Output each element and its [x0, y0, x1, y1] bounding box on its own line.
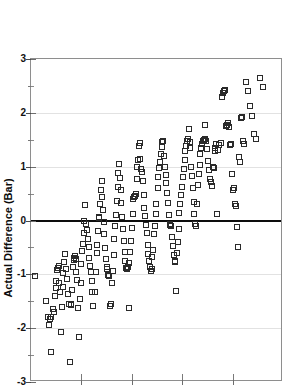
data-point-marker: [149, 266, 155, 272]
data-point-marker: [102, 245, 108, 251]
data-point-marker: [188, 164, 194, 170]
y-tick-major-inner: [31, 328, 36, 329]
data-point-marker: [237, 159, 243, 165]
data-point-marker: [99, 178, 105, 184]
data-point-marker: [247, 103, 253, 109]
data-point-marker: [82, 202, 88, 208]
data-point-marker: [150, 247, 156, 253]
data-point-marker: [153, 201, 159, 207]
data-point-marker: [172, 258, 178, 264]
y-tick-minor-inner: [31, 140, 34, 141]
data-point-marker: [128, 238, 134, 244]
data-point-marker: [153, 211, 159, 217]
data-point-marker: [241, 141, 247, 147]
data-point-marker: [260, 84, 266, 90]
data-point-marker: [228, 141, 234, 147]
data-point-marker: [152, 223, 158, 229]
data-point-marker: [214, 211, 220, 217]
data-point-marker: [76, 334, 82, 340]
data-point-marker: [121, 238, 127, 244]
data-point-marker: [253, 136, 259, 142]
data-point-marker: [111, 236, 117, 242]
data-point-marker: [59, 304, 65, 310]
data-point-marker: [164, 190, 170, 196]
data-point-marker: [155, 185, 161, 191]
data-point-marker: [165, 200, 171, 206]
data-point-marker: [84, 227, 90, 233]
data-point-marker: [234, 224, 240, 230]
data-point-marker: [166, 212, 172, 218]
y-tick-minor-inner: [31, 86, 34, 87]
x-tick-major-inner: [81, 374, 82, 380]
data-point-marker: [141, 205, 147, 211]
x-tick-major: [182, 380, 183, 385]
y-tick-minor-inner: [31, 247, 34, 248]
data-point-marker: [176, 226, 182, 232]
data-point-marker: [117, 175, 123, 181]
data-point-marker: [61, 259, 67, 265]
x-tick-major: [233, 380, 234, 385]
data-point-marker: [178, 192, 184, 198]
data-point-marker: [137, 156, 143, 162]
data-point-marker: [118, 187, 124, 193]
plot-inner: [31, 59, 281, 380]
data-point-marker: [126, 260, 132, 266]
data-point-marker: [129, 225, 135, 231]
zero-reference-line: [31, 220, 281, 222]
data-point-marker: [161, 153, 167, 159]
data-point-marker: [137, 140, 143, 146]
data-point-marker: [141, 192, 147, 198]
data-point-marker: [204, 146, 210, 152]
data-point-marker: [32, 273, 38, 279]
data-point-marker: [86, 255, 92, 261]
data-point-marker: [106, 273, 112, 279]
data-point-marker: [62, 251, 68, 257]
data-point-marker: [203, 138, 209, 144]
data-point-marker: [235, 244, 241, 250]
data-point-marker: [151, 231, 157, 237]
data-point-marker: [78, 280, 84, 286]
data-point-marker: [112, 223, 118, 229]
data-point-marker: [119, 214, 125, 220]
data-point-marker: [197, 162, 203, 168]
data-point-marker: [139, 169, 145, 175]
data-point-marker: [173, 288, 179, 294]
data-point-marker: [209, 183, 215, 189]
data-point-marker: [63, 266, 69, 272]
data-point-marker: [222, 87, 228, 93]
data-point-marker: [163, 172, 169, 178]
data-point-marker: [67, 359, 73, 365]
data-point-marker: [239, 114, 245, 120]
data-point-marker: [186, 126, 192, 132]
data-point-marker: [194, 201, 200, 207]
data-point-marker: [133, 191, 139, 197]
data-point-marker: [94, 250, 100, 256]
data-point-marker: [68, 301, 74, 307]
data-point-marker: [60, 284, 66, 290]
data-point-marker: [79, 248, 85, 254]
data-point-marker: [142, 213, 148, 219]
gridline-horizontal: [31, 328, 281, 329]
data-point-marker: [176, 210, 182, 216]
data-point-marker: [174, 250, 180, 256]
data-point-marker: [48, 314, 54, 320]
data-point-marker: [94, 242, 100, 248]
y-tick-minor-inner: [31, 355, 34, 356]
data-point-marker: [116, 161, 122, 167]
data-point-marker: [202, 122, 208, 128]
data-point-marker: [99, 194, 105, 200]
data-point-marker: [126, 305, 132, 311]
data-point-marker: [218, 140, 224, 146]
data-point-marker: [48, 349, 54, 355]
data-point-marker: [97, 201, 103, 207]
data-point-marker: [249, 113, 255, 119]
data-point-marker: [75, 305, 81, 311]
data-point-marker: [108, 301, 114, 307]
x-tick-major-inner: [233, 374, 234, 380]
y-tick-major-inner: [31, 382, 36, 383]
data-point-marker: [90, 303, 96, 309]
y-axis-title-text: Actual Difference (Bar): [2, 178, 14, 297]
data-point-marker: [189, 173, 195, 179]
x-tick-major-inner: [132, 374, 133, 380]
data-point-marker: [118, 200, 124, 206]
